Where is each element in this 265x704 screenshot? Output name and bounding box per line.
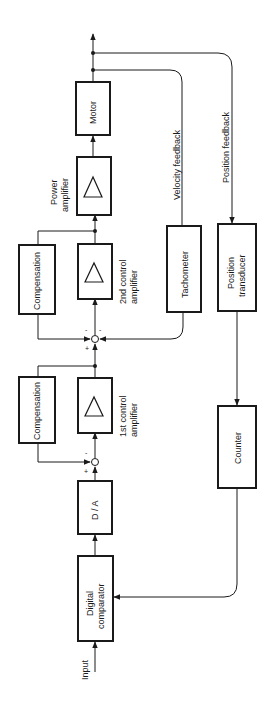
compensation-1-block: Compensation [19,377,55,443]
velocity-feedback-label: Velocity feedback [172,129,182,200]
compensation-1-label: Compensation [32,382,42,440]
summing-junction-2 [92,336,99,343]
compensation-2-output-line [38,314,90,339]
position-transducer-block: Position transducer [218,224,256,311]
branch-node [93,364,97,368]
junction-2-plus: + [85,345,89,352]
control-amplifier-2-block: 2nd control amplifier [78,244,139,304]
position-feedback-line [93,53,232,223]
position-transducer-label-2: transducer [237,254,247,297]
power-amplifier-block: Power amplifier [49,157,111,215]
position-feedback-label: Position feedback [221,111,231,183]
motor-block: Motor [76,82,110,135]
counter-output-line [114,488,237,597]
control-amplifier-2-label-1: 2nd control [118,259,128,304]
summing-junction-1 [92,459,99,466]
digital-comparator-label-2: comparator [96,583,106,629]
da-converter-block: D / A [78,481,112,534]
tachometer-label: Tachometer [180,251,190,298]
input-label: Input [80,659,90,680]
compensation-1-output-line [38,443,90,462]
control-amplifier-1-label-1: 1st control [118,395,128,437]
control-amplifier-1-label-2: amplifier [129,403,139,437]
control-amplifier-1-block: 1st control amplifier [78,378,139,437]
digital-comparator-block: Digital comparator [78,556,113,641]
compensation-2-input-line [38,231,95,245]
compensation-2-block: Compensation [19,245,55,314]
da-label: D / A [90,500,100,520]
compensation-2-label: Compensation [32,252,42,310]
junction-2-minus-a: - [85,326,88,333]
junction-1-plus: + [84,468,88,475]
motor-label: Motor [88,101,98,124]
tachometer-output-line [100,312,183,339]
block-diagram: Input Digital comparator D / A + - Compe… [0,0,265,704]
junction-1-minus: - [85,449,88,456]
counter-block: Counter [218,406,256,488]
control-amplifier-2-label-2: amplifier [129,270,139,304]
branch-node [93,229,97,233]
junction-2-minus-b: - [99,326,102,333]
compensation-1-input-line [38,366,95,377]
digital-comparator-label-1: Digital [85,591,95,616]
counter-label: Counter [233,432,243,464]
tachometer-block: Tachometer [167,226,201,312]
power-amplifier-label-1: Power [49,179,59,205]
position-transducer-label-1: Position [226,257,236,289]
power-amplifier-label-2: amplifier [60,178,70,212]
